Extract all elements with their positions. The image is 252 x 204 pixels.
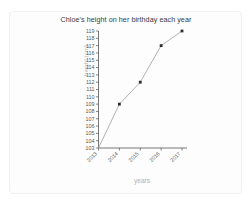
y-tick-label: 110 xyxy=(86,94,95,100)
y-tick-label: 105 xyxy=(86,130,95,136)
x-tick-label: 2015 xyxy=(127,150,140,163)
y-tick-label: 113 xyxy=(86,72,95,78)
y-tick-label: 107 xyxy=(86,116,95,122)
y-tick-label: 119 xyxy=(86,28,95,34)
x-tick-label: 2017 xyxy=(169,150,182,163)
x-tick-label: 2013 xyxy=(85,150,98,163)
x-tick-label: 2016 xyxy=(148,150,161,163)
y-tick-label: 115 xyxy=(86,57,95,63)
data-point-marker xyxy=(139,81,142,84)
x-tick-label: 2014 xyxy=(106,150,119,163)
chart-plot-area: 1031041051061071081091101111121131141151… xyxy=(0,0,252,204)
data-point-marker xyxy=(181,30,184,33)
data-point-marker xyxy=(160,44,163,47)
y-tick-label: 106 xyxy=(86,123,95,129)
y-axis-ticks: 1031041051061071081091101111121131141151… xyxy=(86,28,99,151)
y-tick-label: 114 xyxy=(86,64,95,70)
data-markers xyxy=(118,30,183,106)
data-point-marker xyxy=(118,103,121,106)
y-tick-label: 108 xyxy=(86,108,95,114)
x-axis-ticks: 20132014201520162017 xyxy=(85,148,182,163)
y-tick-label: 117 xyxy=(86,43,95,49)
data-series-line xyxy=(99,31,183,148)
y-tick-label: 104 xyxy=(86,138,95,144)
y-tick-label: 116 xyxy=(86,50,95,56)
y-tick-label: 118 xyxy=(86,35,95,41)
y-tick-label: 111 xyxy=(86,86,94,92)
line-chart: Chloe's height on her birthday each year… xyxy=(0,0,252,204)
y-tick-label: 112 xyxy=(86,79,95,85)
y-tick-label: 109 xyxy=(86,101,95,107)
